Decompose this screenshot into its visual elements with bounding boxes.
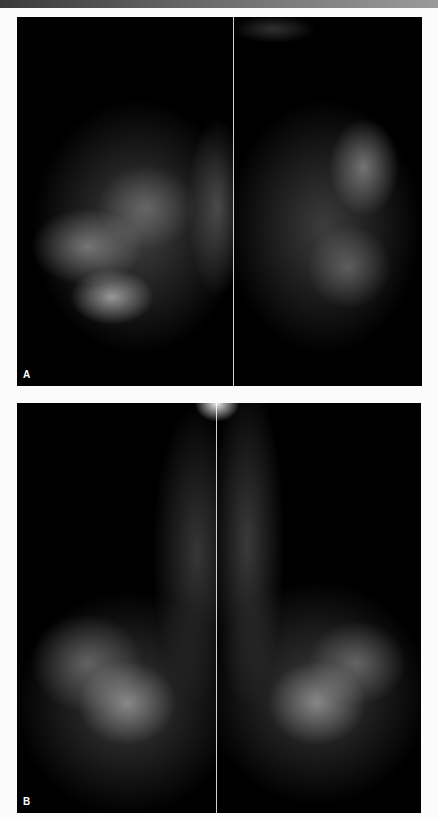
panel-label-a: A xyxy=(23,369,30,380)
bleed-through-text xyxy=(0,270,16,310)
breast-image-right-mlo xyxy=(217,403,421,813)
mammogram-panel-b: B xyxy=(17,403,421,813)
mammogram-panel-a: A xyxy=(17,17,422,386)
breast-image-right-cc xyxy=(234,17,422,386)
breast-image-left-mlo xyxy=(17,403,216,813)
pectoral-glow xyxy=(187,403,247,433)
top-page-edge xyxy=(0,0,438,8)
breast-image-left-cc xyxy=(17,17,233,386)
panel-label-b: B xyxy=(23,796,30,807)
